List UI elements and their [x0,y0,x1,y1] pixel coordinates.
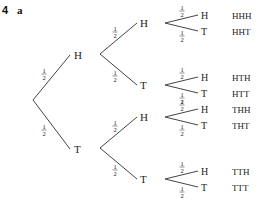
probability-label: 12 [180,66,185,81]
fraction-numerator: 1 [180,185,183,192]
branch-level2-t [100,54,137,85]
fraction-numerator: 1 [180,98,183,105]
branch-level2-h [100,117,137,148]
probability-label: 12 [113,25,118,40]
node-level3-h: H [201,104,208,115]
probability-label: 12 [42,123,47,138]
node-level3-t: T [201,120,207,131]
node-level1-t: T [74,143,81,155]
branch-level1-t [33,100,70,149]
probability-label: 12 [180,98,185,113]
fraction-numerator: 1 [180,123,183,130]
fraction-numerator: 1 [113,119,116,126]
probability-label: 12 [113,119,118,134]
outcome-tth: TTH [232,167,250,177]
fraction-numerator: 1 [180,160,183,167]
fraction-numerator: 1 [180,66,183,73]
outcome-hth: HTH [232,73,251,83]
fraction-denominator: 2 [42,130,45,137]
fraction-denominator: 2 [113,76,116,83]
branch-level2-t [100,148,137,179]
fraction-numerator: 1 [180,29,183,36]
node-level1-h: H [74,49,82,61]
fraction-denominator: 2 [180,192,183,199]
fraction-denominator: 2 [113,126,116,133]
node-level3-t: T [201,26,207,37]
node-level3-h: H [201,166,208,177]
fraction-denominator: 2 [180,11,183,18]
node-level3-h: H [201,10,208,21]
outcome-hhh: HHH [232,11,252,21]
probability-label: 12 [180,185,185,200]
node-level2-t: T [140,173,147,185]
probability-label: 12 [180,160,185,175]
fraction-denominator: 2 [180,105,183,112]
node-level2-h: H [140,17,148,29]
fraction-denominator: 2 [180,167,183,174]
outcome-hht: HHT [232,27,251,37]
fraction-denominator: 2 [180,73,183,80]
fraction-numerator: 1 [42,123,45,130]
fraction-denominator: 2 [180,36,183,43]
branch-level2-h [100,23,137,54]
outcome-thh: THH [232,105,251,115]
probability-label: 12 [180,4,185,19]
node-level3-t: T [201,88,207,99]
probability-label: 12 [180,29,185,44]
node-level2-h: H [140,111,148,123]
fraction-numerator: 1 [180,91,183,98]
node-level3-t: T [201,182,207,193]
node-level2-t: T [140,79,147,91]
fraction-numerator: 1 [42,67,45,74]
fraction-denominator: 2 [42,74,45,81]
node-level3-h: H [201,72,208,83]
outcome-ttt: TTT [232,183,249,193]
probability-label: 12 [113,163,118,178]
probability-label: 12 [113,69,118,84]
outcome-tht: THT [232,121,250,131]
fraction-denominator: 2 [180,130,183,137]
outcome-htt: HTT [232,89,250,99]
branch-level1-h [33,55,70,100]
fraction-numerator: 1 [113,163,116,170]
fraction-denominator: 2 [113,32,116,39]
fraction-numerator: 1 [113,69,116,76]
probability-label: 12 [180,123,185,138]
fraction-denominator: 2 [113,170,116,177]
fraction-numerator: 1 [180,4,183,11]
probability-label: 12 [42,67,47,82]
fraction-numerator: 1 [113,25,116,32]
probability-tree-diagram: 12H12H12HHHH12THHT12T12HHTH12THTT12T12H1… [0,0,269,200]
